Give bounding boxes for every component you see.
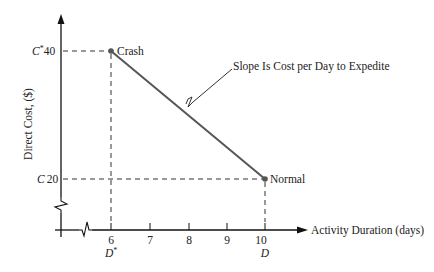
x-axis	[55, 222, 308, 236]
x-axis-arrow-icon	[297, 227, 308, 234]
y-tick-20: C20	[37, 173, 58, 185]
x-sub-6-sup: *	[113, 246, 117, 255]
y-tick-20-value: 20	[47, 173, 59, 185]
x-axis-break-icon	[79, 222, 92, 236]
x-tick-10: 10	[255, 234, 267, 246]
x-sub-6: D*	[104, 246, 117, 259]
x-tick-8: 8	[186, 234, 192, 246]
x-axis-title: Activity Duration (days)	[311, 224, 424, 237]
x-tick-9: 9	[224, 234, 230, 246]
callout-leader	[186, 69, 232, 107]
y-tick-40-value: 40	[44, 45, 56, 57]
callout-text: Slope Is Cost per Day to Expedite	[233, 60, 390, 73]
cost-duration-diagram: Crash Normal Slope Is Cost per Day to Ex…	[0, 0, 434, 272]
y-axis	[55, 14, 67, 237]
y-tick-40: C*40	[32, 44, 55, 57]
y-axis-break-icon	[55, 197, 67, 213]
y-tick-20-prefix: C	[37, 173, 45, 185]
guide-lines	[63, 51, 265, 222]
normal-point	[262, 176, 268, 182]
y-axis-title: Direct Cost, ($)	[22, 88, 35, 160]
x-sub-10: D	[260, 247, 270, 259]
y-axis-arrow-icon	[58, 14, 65, 24]
x-tick-7: 7	[147, 234, 153, 246]
crash-point	[108, 48, 114, 54]
normal-label: Normal	[270, 173, 305, 185]
x-tick-6: 6	[108, 234, 114, 246]
crash-label: Crash	[117, 45, 144, 57]
